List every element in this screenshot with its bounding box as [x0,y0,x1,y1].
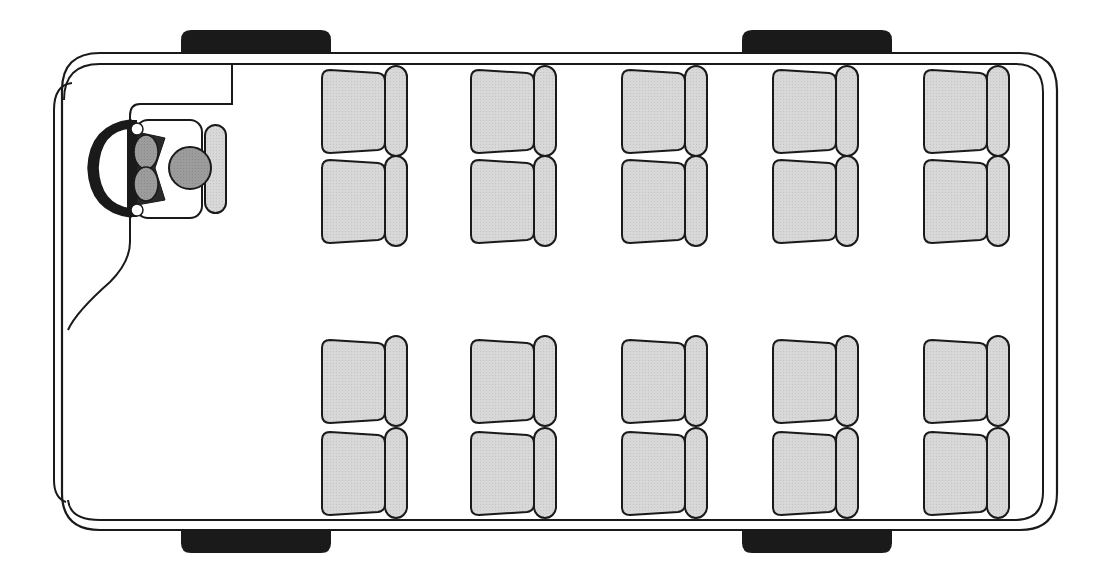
seat-backrest [385,336,407,426]
driver-head [169,147,211,189]
seat-backrest [987,156,1009,246]
passenger-seat [773,428,858,518]
seat-cushion [322,340,385,423]
seat-cushion [622,340,685,423]
seat-cushion [924,432,987,515]
passenger-seat [471,428,556,518]
seat-backrest [534,66,556,156]
passenger-seat [471,66,556,156]
passenger-seat [622,336,707,426]
passenger-seat [773,336,858,426]
seat-backrest [836,66,858,156]
seat-backrest [685,336,707,426]
seat-backrest [534,156,556,246]
seat-backrest [987,428,1009,518]
passenger-seat [322,156,407,246]
passenger-seat [773,156,858,246]
passenger-seat [622,66,707,156]
passenger-seat [471,156,556,246]
driver-hand-bottom [134,167,158,201]
seat-cushion [471,70,534,153]
passenger-seat [622,156,707,246]
seat-cushion [924,70,987,153]
seat-backrest [385,428,407,518]
passenger-seat [622,428,707,518]
seat-cushion [622,160,685,243]
passenger-seat [924,156,1009,246]
bus-body-outer [62,53,1057,530]
seat-cushion [622,70,685,153]
seat-cushion [322,70,385,153]
passenger-seat [773,66,858,156]
seat-cushion [773,432,836,515]
seat-cushion [471,432,534,515]
seat-cushion [322,432,385,515]
wheel-front-right [181,530,331,553]
passenger-seat [322,336,407,426]
bus-floorplan [0,0,1099,575]
seat-backrest [987,66,1009,156]
passenger-seat [322,66,407,156]
seat-backrest [534,428,556,518]
seat-backrest [685,66,707,156]
seat-cushion [322,160,385,243]
seat-backrest [685,156,707,246]
seat-backrest [685,428,707,518]
passenger-seat [924,66,1009,156]
seat-cushion [773,70,836,153]
seat-cushion [471,340,534,423]
seat-backrest [534,336,556,426]
passenger-seat [322,428,407,518]
passenger-seat [471,336,556,426]
bus-diagram: Minibus seating layout (top view) [0,0,1099,575]
passenger-seat [924,336,1009,426]
wheel-front-left [181,30,331,53]
seat-cushion [924,160,987,243]
seat-cushion [622,432,685,515]
seat-cushion [924,340,987,423]
seat-backrest [836,156,858,246]
seat-cushion [471,160,534,243]
driver-hand-top [134,135,158,169]
wheel-rear-right [742,530,892,553]
seat-backrest [385,66,407,156]
seat-backrest [836,428,858,518]
passenger-seat [924,428,1009,518]
seat-backrest [987,336,1009,426]
seat-cushion [773,340,836,423]
wheel-rear-left [742,30,892,53]
seat-cushion [773,160,836,243]
seat-backrest [836,336,858,426]
seat-backrest [385,156,407,246]
